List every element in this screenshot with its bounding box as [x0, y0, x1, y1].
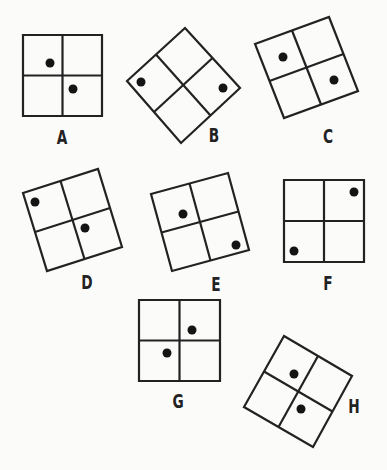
dot — [137, 78, 146, 87]
figure-label-b: B — [209, 126, 219, 145]
divider-line — [35, 208, 110, 232]
figure-label-d: D — [81, 273, 92, 292]
figure-options-diagram: A B C D E F G H — [0, 0, 387, 470]
dot — [290, 370, 299, 379]
figure-h — [244, 336, 352, 447]
figure-label-g: G — [172, 392, 183, 411]
dot — [279, 53, 288, 62]
figure-d — [23, 169, 122, 271]
figure-c — [255, 17, 358, 118]
figure-label-e: E — [211, 275, 220, 294]
dot — [179, 210, 188, 219]
diagram-canvas — [0, 0, 387, 470]
dot — [188, 326, 197, 335]
dot — [290, 247, 299, 256]
divider-line — [162, 212, 239, 233]
dot — [350, 188, 359, 197]
dot — [330, 76, 339, 85]
dot — [232, 241, 241, 250]
figure-label-f: F — [323, 274, 332, 293]
figure-label-a: A — [57, 128, 68, 147]
dot — [81, 224, 90, 233]
figure-f — [284, 180, 364, 262]
figure-g — [139, 300, 220, 381]
figure-b — [127, 28, 240, 143]
dot — [297, 405, 306, 414]
dot — [31, 198, 40, 207]
dot — [219, 84, 228, 93]
dot — [163, 349, 172, 358]
figure-label-c: C — [323, 127, 333, 146]
figure-e — [151, 173, 249, 271]
dot — [46, 59, 55, 68]
dot — [69, 85, 78, 94]
figure-label-h: H — [348, 397, 359, 416]
figure-a — [23, 35, 102, 116]
divider-line — [156, 55, 211, 116]
